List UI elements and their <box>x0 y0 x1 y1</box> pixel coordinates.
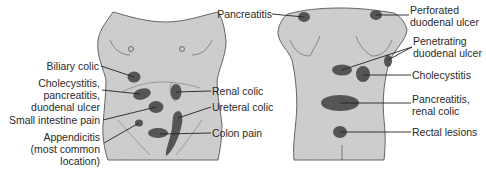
label-renal-colic: Renal colic <box>212 85 263 97</box>
label-appendicitis: Appendicitis (most common location) <box>31 131 100 167</box>
referred-pain-diagram: Biliary colic Cholecystitis, pancreatiti… <box>0 0 486 169</box>
label-pancreatitis-renal: Pancreatitis, renal colic <box>412 93 470 117</box>
label-biliary-colic: Biliary colic <box>46 60 99 72</box>
front-torso <box>98 12 226 160</box>
label-rectal-lesions: Rectal lesions <box>412 126 477 138</box>
label-pancreatitis-back: Pancreatitis <box>217 8 272 20</box>
label-small-intestine: Small intestine pain <box>9 114 100 126</box>
spot-penetrating-du-right <box>384 55 392 67</box>
spot-colon-pain <box>148 128 168 138</box>
label-cholecystitis-front: Cholecystitis, pancreatitis, duodenal ul… <box>31 77 100 113</box>
label-perforated-du: Perforated duodenal ulcer <box>410 4 479 28</box>
label-ureteral-colic: Ureteral colic <box>212 101 273 113</box>
label-penetrating-du: Penetrating duodenal ulcer <box>413 35 482 59</box>
label-colon-pain: Colon pain <box>212 127 262 139</box>
spot-cholecystitis-back <box>356 66 370 82</box>
label-cholecystitis-back: Cholecystitis <box>412 69 471 81</box>
